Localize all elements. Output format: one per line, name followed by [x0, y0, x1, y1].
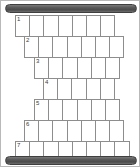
grid-row: 6: [24, 120, 124, 142]
grid-cell[interactable]: [77, 99, 92, 121]
grid-row: 2: [24, 36, 124, 58]
clue-number: 3: [36, 58, 39, 65]
grid-cell[interactable]: 2: [24, 36, 39, 58]
grid-cell[interactable]: [29, 15, 44, 37]
clue-number: 5: [36, 100, 39, 107]
grid-cell[interactable]: [95, 120, 110, 142]
clue-number: 6: [26, 121, 29, 128]
grid-cell[interactable]: [58, 15, 73, 37]
grid-cell[interactable]: [62, 99, 77, 121]
grid-cell[interactable]: [67, 36, 82, 58]
grid-cell[interactable]: [105, 99, 120, 121]
grid-cell[interactable]: [91, 99, 106, 121]
grid-cell[interactable]: [100, 78, 115, 100]
grid-cell[interactable]: [77, 57, 92, 79]
grid-cell[interactable]: 6: [24, 120, 39, 142]
grid-cell[interactable]: 1: [15, 15, 30, 37]
grid-cell[interactable]: [95, 36, 110, 58]
grid-cell[interactable]: [38, 120, 53, 142]
grid-row: 5: [34, 99, 120, 121]
grid-cell[interactable]: 5: [34, 99, 49, 121]
clue-number: 2: [26, 37, 29, 44]
grid-cell[interactable]: [109, 36, 124, 58]
clue-number: 4: [45, 79, 48, 86]
grid-cell[interactable]: [86, 15, 101, 37]
grid-cell[interactable]: [62, 57, 77, 79]
bottom-rail-bar: [5, 156, 137, 165]
grid-cell[interactable]: [71, 78, 86, 100]
grid-row: 3: [34, 57, 120, 79]
grid-row: 4: [43, 78, 115, 100]
grid-cell[interactable]: 3: [34, 57, 49, 79]
grid-cell[interactable]: [48, 57, 63, 79]
grid-cell[interactable]: [81, 36, 96, 58]
grid-cell[interactable]: [86, 78, 101, 100]
grid-cell[interactable]: [72, 15, 87, 37]
grid-cell[interactable]: [43, 15, 58, 37]
grid-cell[interactable]: [105, 57, 120, 79]
grid-cell[interactable]: [109, 120, 124, 142]
grid-cell[interactable]: [52, 120, 67, 142]
grid-cell[interactable]: [38, 36, 53, 58]
grid-cell[interactable]: [100, 15, 115, 37]
grid-row: 1: [15, 15, 115, 37]
grid-cell[interactable]: 4: [43, 78, 58, 100]
grid-cell[interactable]: [91, 57, 106, 79]
grid-cell[interactable]: [67, 120, 82, 142]
puzzle-frame: 1234567: [0, 0, 140, 167]
clue-number: 1: [17, 16, 20, 23]
clue-number: 7: [17, 142, 20, 149]
grid-cell[interactable]: [57, 78, 72, 100]
grid-cell[interactable]: [48, 99, 63, 121]
grid-cell[interactable]: [81, 120, 96, 142]
top-rail-bar: [5, 4, 137, 13]
grid-cell[interactable]: [52, 36, 67, 58]
